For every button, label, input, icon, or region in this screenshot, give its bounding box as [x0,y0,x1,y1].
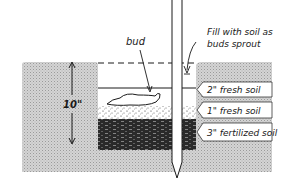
bud-tuber-icon [107,93,160,105]
depth-label: 10" [63,99,82,110]
bud-pointer-line [140,50,150,90]
layer-mid-label: 1" fresh soil [207,106,261,116]
layer-top-label: 2" fresh soil [207,85,261,95]
fill-label-line2: buds sprout [207,39,261,49]
fill-label-line1: Fill with soil as [207,27,273,37]
planting-diagram: bud Fill with soil as buds sprout 10" 2"… [0,0,304,183]
fill-pointer-line [187,42,196,70]
layer-bottom-label: 3" fertilized soil [207,128,278,138]
bud-label: bud [126,36,146,47]
stake [172,0,182,178]
